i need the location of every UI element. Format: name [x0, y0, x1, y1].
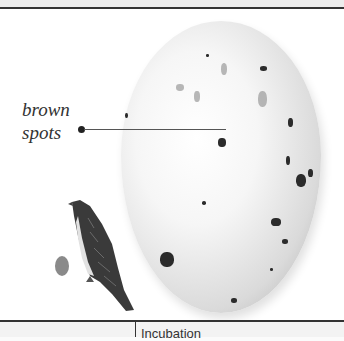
- table-cell-right: Incubation: [141, 327, 201, 340]
- brown-spot: [271, 218, 281, 226]
- brown-spot: [286, 156, 290, 165]
- brown-spot: [308, 169, 313, 177]
- brown-spot: [160, 252, 174, 267]
- brown-spot: [260, 66, 267, 71]
- brown-spot: [282, 239, 288, 244]
- brown-spot: [288, 118, 293, 127]
- brown-spot: [218, 138, 226, 147]
- light-spot: [176, 84, 184, 91]
- brown-spot: [231, 298, 237, 303]
- brown-spot: [202, 201, 206, 205]
- light-spot: [258, 91, 267, 107]
- label-line-2: spots: [22, 121, 70, 144]
- brown-spots-label: brown spots: [22, 98, 70, 144]
- top-table-row: [0, 0, 344, 7]
- label-line-1: brown: [22, 98, 70, 121]
- brown-spot: [125, 113, 128, 118]
- table-column-divider: [135, 322, 136, 337]
- bird-illustration: [68, 198, 138, 313]
- small-egg-illustration: [55, 256, 69, 276]
- leader-line: [84, 129, 226, 130]
- light-spot: [221, 63, 227, 75]
- light-spot: [194, 91, 200, 102]
- brown-spot: [206, 54, 209, 57]
- brown-spot: [270, 268, 273, 271]
- brown-spot: [296, 174, 306, 187]
